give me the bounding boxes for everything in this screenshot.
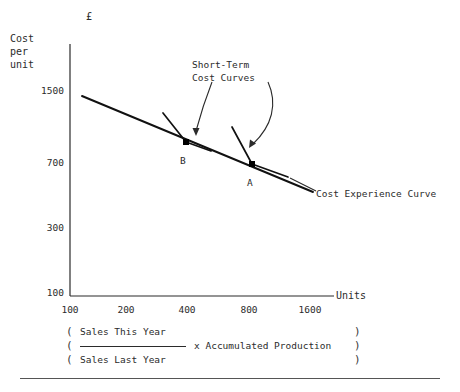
x-tick-label-400: 400	[167, 304, 207, 315]
formula-paren-right-mid: )	[354, 339, 361, 352]
annotation-short-term-cost-curves: Short-TermCost Curves	[192, 58, 255, 84]
arrow-to-point-b	[193, 82, 213, 136]
data-point-b-marker	[183, 139, 189, 145]
formula-numerator: Sales This Year	[80, 326, 166, 337]
annotation-short-term-line1: Short-Term	[192, 59, 249, 70]
x-tick-label-1600: 1600	[290, 304, 330, 315]
accumulated-production-formula: ( ( ( Sales This Year Sales Last Year x …	[66, 325, 366, 369]
y-axis-title: Costperunit	[10, 32, 34, 71]
data-point-label-a: A	[247, 177, 253, 188]
data-point-label-b: B	[180, 155, 186, 166]
y-axis-title-line3: unit	[10, 59, 34, 70]
formula-paren-left-mid: (	[66, 339, 73, 352]
arrow-to-point-a	[249, 82, 273, 148]
y-axis-title-line2: per	[10, 46, 28, 57]
bottom-divider-rule	[20, 378, 440, 379]
currency-symbol: £	[86, 11, 92, 22]
annotation-cost-experience-curve: Cost Experience Curve	[316, 188, 436, 199]
formula-fraction-bar	[80, 346, 186, 347]
x-tick-label-200: 200	[106, 304, 146, 315]
formula-paren-left-bottom: (	[66, 353, 73, 366]
y-tick-label-100: 100	[22, 287, 64, 298]
y-tick-label-300: 300	[22, 222, 64, 233]
x-tick-label-800: 800	[229, 304, 269, 315]
y-axis-title-line1: Cost	[10, 33, 34, 44]
cost-experience-curve-line	[82, 96, 313, 192]
formula-multiplier: x Accumulated Production	[194, 340, 331, 351]
formula-paren-right-bottom: )	[354, 353, 361, 366]
data-point-a-marker	[249, 161, 255, 167]
y-tick-label-700: 700	[22, 157, 64, 168]
formula-paren-right-top: )	[354, 325, 361, 338]
formula-denominator: Sales Last Year	[80, 354, 166, 365]
x-tick-label-100: 100	[50, 304, 90, 315]
x-axis-title: Units	[336, 290, 366, 301]
formula-paren-left-top: (	[66, 325, 73, 338]
annotation-short-term-line2: Cost Curves	[192, 72, 255, 83]
y-tick-label-1500: 1500	[22, 85, 64, 96]
